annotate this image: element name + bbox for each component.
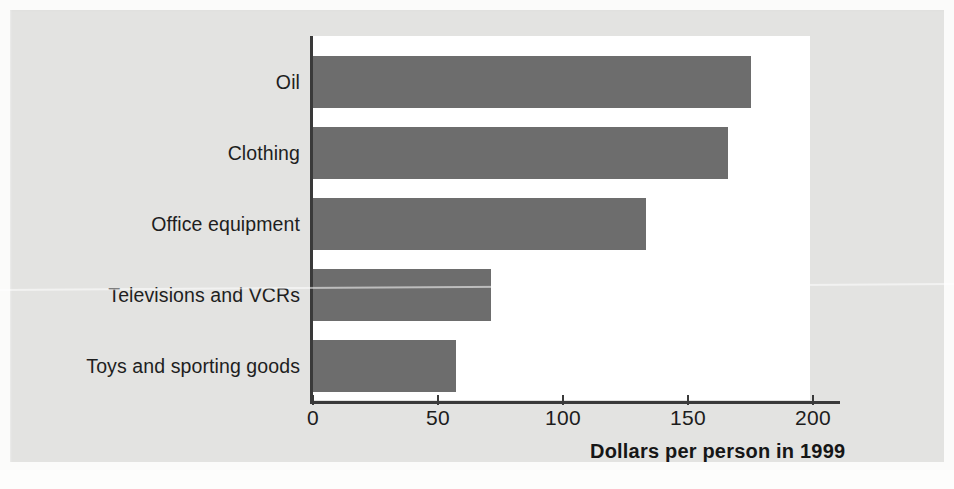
x-tick-label-50: 50 [426,406,450,430]
x-axis-line [310,401,840,404]
x-tick-50 [437,395,439,405]
x-tick-100 [562,395,564,405]
x-tick-label-200: 200 [795,406,831,430]
chart-screenshot: 0 50 100 150 200 Oil Clothing Office equ… [0,0,954,489]
category-label-office-equipment: Office equipment [151,213,300,236]
y-axis-line [310,36,313,404]
bar-toys-and-sporting-goods [313,340,456,392]
x-tick-0 [312,395,314,405]
category-label-televisions-and-vcrs: Televisions and VCRs [108,284,300,307]
x-tick-label-100: 100 [545,406,581,430]
x-tick-label-150: 150 [670,406,706,430]
x-tick-label-0: 0 [307,406,319,430]
bar-clothing [313,127,728,179]
bar-office-equipment [313,198,646,250]
bar-oil [313,56,751,108]
category-label-clothing: Clothing [228,142,300,165]
category-label-toys-and-sporting-goods: Toys and sporting goods [86,355,300,378]
category-label-oil: Oil [276,71,300,94]
x-tick-200 [812,395,814,405]
bar-televisions-and-vcrs [313,269,491,321]
x-axis-title: Dollars per person in 1999 [590,440,845,463]
horizontal-bar-chart: 0 50 100 150 200 Oil Clothing Office equ… [0,0,954,489]
x-tick-150 [687,395,689,405]
